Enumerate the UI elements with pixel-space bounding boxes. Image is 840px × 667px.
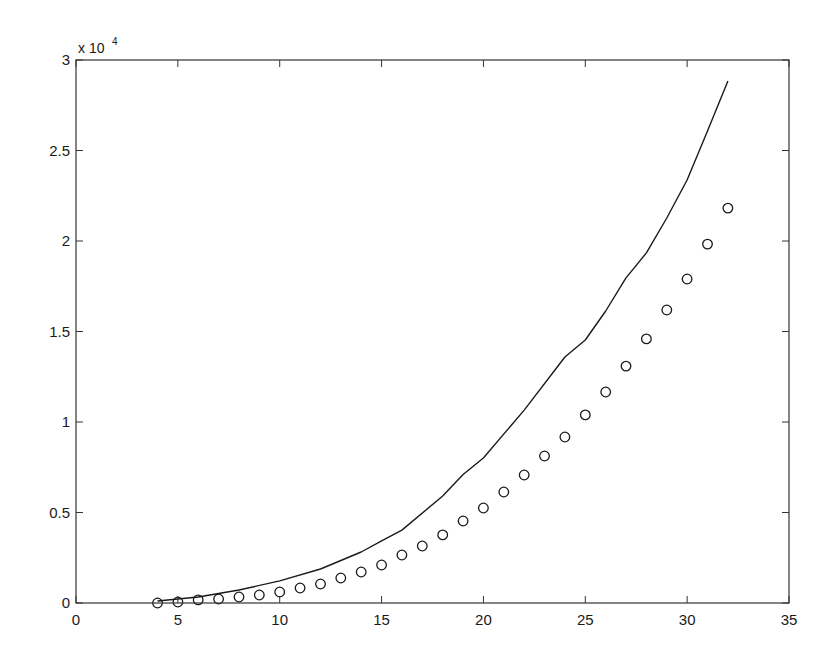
- y-exponent-label: x 10 4: [78, 36, 118, 56]
- y-exponent-base: x 10: [78, 40, 105, 56]
- y-tick-label: 1.5: [49, 323, 70, 340]
- chart: 0510152025303500.511.522.53 x 10 4: [0, 0, 840, 667]
- plot-background: [76, 60, 789, 603]
- y-tick-label: 1: [62, 413, 70, 430]
- x-tick-label: 20: [475, 611, 492, 628]
- x-tick-label: 15: [373, 611, 390, 628]
- x-tick-label: 0: [72, 611, 80, 628]
- x-tick-label: 5: [174, 611, 182, 628]
- y-tick-label: 2: [62, 232, 70, 249]
- y-exponent-power: 4: [112, 36, 118, 47]
- y-tick-label: 0.5: [49, 504, 70, 521]
- y-tick-label: 3: [62, 51, 70, 68]
- y-tick-label: 0: [62, 594, 70, 611]
- y-tick-label: 2.5: [49, 142, 70, 159]
- x-tick-label: 25: [577, 611, 594, 628]
- x-tick-label: 30: [679, 611, 696, 628]
- x-tick-label: 10: [271, 611, 288, 628]
- x-tick-label: 35: [781, 611, 798, 628]
